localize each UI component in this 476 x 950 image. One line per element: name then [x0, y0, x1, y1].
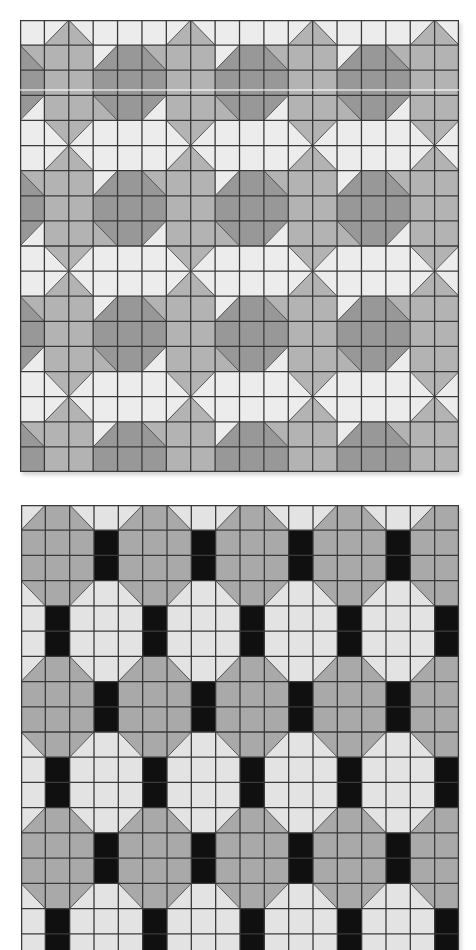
tile-cell [21, 858, 46, 884]
tile-cell [21, 833, 46, 859]
tile-cell [435, 20, 459, 45]
tile-cell [410, 707, 435, 733]
tile-cell [142, 246, 167, 271]
tile-cell [435, 70, 459, 95]
tile-cell [435, 422, 459, 447]
tile-cell [313, 606, 338, 632]
tile-cell [70, 707, 95, 733]
tile-cell [118, 682, 143, 708]
tile-cell [167, 631, 192, 657]
tile-cell [264, 934, 289, 950]
tile-cell [435, 447, 459, 472]
tile-cell [142, 196, 167, 221]
tile-cell [313, 271, 337, 296]
tile-cell [410, 934, 435, 950]
tile-cell [313, 246, 337, 271]
tile-cell [362, 555, 387, 581]
tile-cell [216, 808, 240, 833]
tile-cell [410, 606, 435, 632]
tile-cell [410, 757, 435, 783]
tile-cell [191, 171, 216, 196]
tile-cell [191, 397, 215, 422]
tile-cell [167, 555, 192, 581]
tile-cell [69, 372, 93, 397]
tile-cell [191, 146, 215, 171]
tile-cell [362, 883, 386, 908]
tile-cell [264, 682, 289, 708]
tile-cell [313, 120, 337, 145]
tile-cell [167, 530, 192, 556]
tile-cell [435, 146, 459, 171]
tile-cell [435, 397, 459, 422]
tile-cell [410, 909, 435, 935]
tile-cell [191, 196, 216, 221]
tile-cell [313, 447, 338, 472]
tile-cell [264, 530, 289, 556]
tile-cell [20, 397, 45, 422]
tile-cell [118, 909, 143, 935]
tile-cell [21, 782, 46, 808]
tile-cell [313, 858, 338, 884]
tile-cell [191, 296, 216, 321]
tile-cell [313, 707, 338, 733]
tile-cell [313, 70, 338, 95]
tile-cell [21, 934, 46, 950]
tile-cell [118, 757, 143, 783]
tile-cell [435, 171, 459, 196]
tile-cell [313, 296, 338, 321]
tile-cell [118, 530, 143, 556]
tile-cell [70, 808, 94, 833]
tile-cell [216, 707, 241, 733]
tile-cell [362, 833, 387, 859]
tile-cell [313, 909, 338, 935]
tile-cell [435, 95, 459, 120]
tile-cell [167, 606, 192, 632]
tile-cell [118, 782, 143, 808]
tile-cell [191, 271, 215, 296]
tile-cell [191, 422, 216, 447]
tile-cell [142, 397, 167, 422]
tile-cell [70, 631, 95, 657]
tile-cell [264, 631, 289, 657]
tile-cell [142, 20, 167, 45]
tile-cell [435, 221, 459, 246]
tile-cell [21, 707, 46, 733]
tile-cell [410, 530, 435, 556]
tile-cell [20, 120, 45, 145]
tile-cell [435, 296, 459, 321]
tile-cell [70, 732, 94, 757]
tile-cell [167, 833, 192, 859]
tile-cell [69, 20, 93, 45]
tile-cell [142, 120, 167, 145]
tile-cell [167, 934, 192, 950]
tile-cell [191, 321, 216, 346]
tile-cell [21, 757, 46, 783]
tile-cell [70, 530, 95, 556]
tile-cell [362, 732, 386, 757]
tile-cell [216, 883, 240, 908]
tile-cell [264, 782, 289, 808]
top-tile-pattern-panel [20, 20, 459, 472]
tile-cell [20, 70, 45, 95]
tile-cell [435, 321, 459, 346]
tile-cell [410, 631, 435, 657]
tile-cell [167, 757, 192, 783]
tile-cell [216, 682, 241, 708]
tile-cell [264, 707, 289, 733]
tile-cell [216, 606, 241, 632]
tile-cell [313, 171, 338, 196]
tile-cell [362, 606, 387, 632]
octagon-black-bar-tile-pattern [21, 505, 459, 950]
tile-cell [20, 372, 45, 397]
tile-cell [313, 530, 338, 556]
tile-cell [313, 397, 337, 422]
tile-cell [362, 757, 387, 783]
tile-cell [191, 346, 216, 371]
tile-cell [264, 757, 289, 783]
tile-cell [118, 833, 143, 859]
tile-cell [410, 833, 435, 859]
tile-cell [216, 656, 240, 681]
tile-cell [191, 447, 216, 472]
tile-cell [70, 581, 94, 606]
tile-cell [21, 530, 46, 556]
